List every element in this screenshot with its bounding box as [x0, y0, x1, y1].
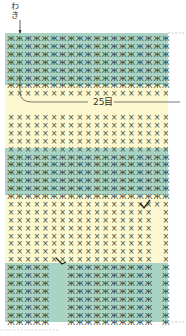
count-bracket-left [20, 75, 88, 102]
annotation-lines [0, 0, 186, 336]
decrease-mark-lower [56, 258, 66, 264]
decrease-mark-upper [140, 200, 150, 208]
side-arrow-head [19, 30, 22, 34]
